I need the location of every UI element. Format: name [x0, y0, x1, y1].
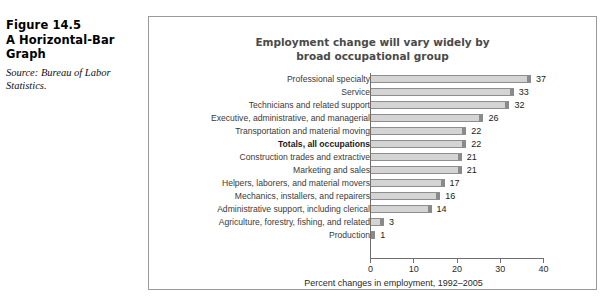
bar: [371, 231, 375, 239]
x-axis-tick: [413, 258, 414, 263]
bar-end-cap: [371, 232, 375, 238]
category-label: Production: [329, 229, 370, 242]
bar-track: 22: [371, 138, 598, 151]
bar-value-label: 32: [514, 99, 524, 112]
figure-source: Source: Bureau of Labor Statistics.: [6, 66, 138, 93]
category-label: Executive, administrative, and manageria…: [211, 112, 370, 125]
category-label: Construction trades and extractive: [240, 151, 370, 164]
category-label: Helpers, laborers, and material movers: [222, 177, 370, 190]
y-axis-line: [370, 73, 371, 259]
bar-row: Production1: [149, 229, 598, 242]
bar-value-label: 21: [467, 151, 477, 164]
chart-title-line-2: broad occupational group: [149, 49, 596, 63]
x-axis-tick-label: 40: [538, 264, 548, 274]
bar-end-cap: [479, 115, 483, 121]
bar-track: 21: [371, 164, 598, 177]
category-label: Totals, all occupations: [278, 138, 370, 151]
bar-end-cap: [436, 193, 440, 199]
x-axis-tick: [370, 258, 371, 263]
bar-row: Helpers, laborers, and material movers17: [149, 177, 598, 190]
bar-value-label: 22: [471, 125, 481, 138]
category-label: Technicians and related support: [249, 99, 370, 112]
figure-source-line-2: Statistics.: [6, 79, 138, 93]
bar-end-cap: [527, 76, 531, 82]
bar: [371, 179, 445, 187]
plot-area: Professional specialty37Service33Technic…: [149, 73, 598, 258]
bar-row: Agriculture, forestry, fishing, and rela…: [149, 216, 598, 229]
bar-value-label: 3: [389, 216, 394, 229]
bar-row: Marketing and sales21: [149, 164, 598, 177]
bar-value-label: 37: [536, 73, 546, 86]
bar-track: 17: [371, 177, 598, 190]
bar-end-cap: [510, 89, 514, 95]
bar-value-label: 16: [445, 190, 455, 203]
figure-heading-line-3: Graph: [6, 47, 138, 62]
bar-row: Service33: [149, 86, 598, 99]
bar-end-cap: [458, 154, 462, 160]
bar: [371, 114, 483, 122]
category-label: Administrative support, including cleric…: [217, 203, 370, 216]
bar-row: Administrative support, including cleric…: [149, 203, 598, 216]
bar-track: 3: [371, 216, 598, 229]
bar-end-cap: [462, 128, 466, 134]
bar-end-cap: [441, 180, 445, 186]
bar-value-label: 22: [471, 138, 481, 151]
bar: [371, 166, 462, 174]
bar: [371, 153, 462, 161]
bar-row: Totals, all occupations22: [149, 138, 598, 151]
bar: [371, 140, 466, 148]
bar-value-label: 33: [519, 86, 529, 99]
category-label: Mechanics, installers, and repairers: [235, 190, 370, 203]
bar-track: 37: [371, 73, 598, 86]
figure-heading-line-2: A Horizontal-Bar: [6, 33, 138, 48]
bar-value-label: 1: [380, 229, 385, 242]
bar-row: Technicians and related support32: [149, 99, 598, 112]
figure-source-line-1: Source: Bureau of Labor: [6, 66, 138, 80]
bar-end-cap: [380, 219, 384, 225]
x-axis-tick-label: 0: [368, 264, 373, 274]
bar-row: Mechanics, installers, and repairers16: [149, 190, 598, 203]
bar-row: Professional specialty37: [149, 73, 598, 86]
bar-track: 26: [371, 112, 598, 125]
chart-frame: Employment change will vary widely by br…: [148, 16, 597, 290]
bar-end-cap: [505, 102, 509, 108]
category-label: Transportation and material moving: [235, 125, 370, 138]
x-axis-title: Percent changes in employment, 1992–2005: [149, 278, 598, 288]
chart-title: Employment change will vary widely by br…: [149, 35, 596, 63]
bar: [371, 127, 466, 135]
figure-heading: Figure 14.5 A Horizontal-Bar Graph: [6, 18, 138, 62]
bar-track: 21: [371, 151, 598, 164]
bar-track: 22: [371, 125, 598, 138]
bar: [371, 101, 509, 109]
bar: [371, 88, 514, 96]
bar: [371, 192, 440, 200]
bar-row: Executive, administrative, and manageria…: [149, 112, 598, 125]
bar: [371, 75, 531, 83]
category-label: Service: [341, 86, 370, 99]
x-axis-tick-label: 10: [409, 264, 419, 274]
bar-track: 14: [371, 203, 598, 216]
bar: [371, 205, 432, 213]
bar-row: Transportation and material moving22: [149, 125, 598, 138]
bar-value-label: 26: [488, 112, 498, 125]
x-axis-tick: [500, 258, 501, 263]
x-axis-tick-label: 20: [452, 264, 462, 274]
figure-caption-block: Figure 14.5 A Horizontal-Bar Graph Sourc…: [6, 18, 138, 93]
bar-value-label: 17: [450, 177, 460, 190]
category-label: Agriculture, forestry, fishing, and rela…: [219, 216, 370, 229]
bar-track: 16: [371, 190, 598, 203]
figure-heading-line-1: Figure 14.5: [6, 18, 138, 33]
bar-value-label: 14: [437, 203, 447, 216]
x-axis-tick-label: 30: [495, 264, 505, 274]
bar-value-label: 21: [467, 164, 477, 177]
category-label: Marketing and sales: [293, 164, 370, 177]
bar-row: Construction trades and extractive21: [149, 151, 598, 164]
bar-track: 32: [371, 99, 598, 112]
bar: [371, 218, 384, 226]
x-axis-tick: [457, 258, 458, 263]
x-axis-tick: [543, 258, 544, 263]
chart-title-line-1: Employment change will vary widely by: [149, 35, 596, 49]
bar-end-cap: [428, 206, 432, 212]
bar-end-cap: [462, 141, 466, 147]
bar-end-cap: [458, 167, 462, 173]
